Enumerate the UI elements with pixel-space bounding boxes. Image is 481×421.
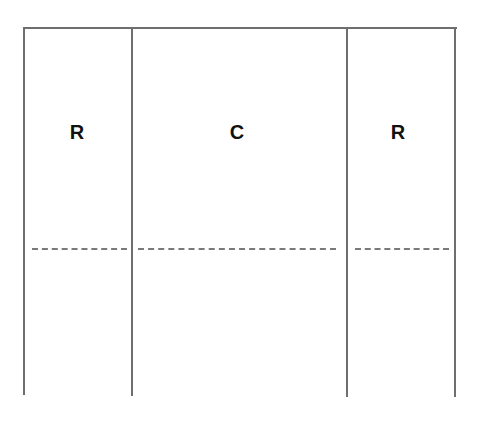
region-right-label: R	[391, 121, 405, 144]
left-border-lower	[23, 184, 25, 395]
divider-right	[346, 27, 348, 397]
region-center-label: C	[230, 121, 244, 144]
dashed-line-left	[32, 248, 127, 252]
top-border	[24, 27, 457, 29]
dashed-line-center	[138, 248, 336, 252]
right-border	[454, 27, 456, 397]
dashed-line-right	[355, 248, 449, 252]
left-border	[23, 27, 25, 184]
divider-left	[131, 27, 133, 396]
region-left-label: R	[70, 121, 84, 144]
